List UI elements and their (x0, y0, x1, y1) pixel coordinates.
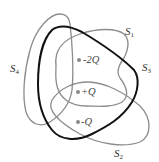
surface-s3-label: S3 (142, 62, 151, 75)
charge-neg2q-label: -2Q (83, 55, 99, 66)
surface-s1-label: S1 (125, 26, 134, 39)
charge-posq-label: +Q (81, 87, 96, 98)
surface-s2-curve (51, 82, 149, 145)
charge-neg2q-dot (77, 58, 81, 62)
surface-s2-label: S2 (114, 148, 123, 161)
charge-posq-dot (76, 90, 80, 94)
surface-s4-curve (24, 14, 73, 125)
charge-negq-label: -Q (81, 117, 92, 128)
surfaces-drawing (0, 0, 159, 162)
gauss-surfaces-diagram: S1 S2 S3 S4 -2Q +Q -Q (0, 0, 159, 162)
charge-negq-dot (76, 120, 80, 124)
surface-s4-label: S4 (10, 63, 19, 76)
